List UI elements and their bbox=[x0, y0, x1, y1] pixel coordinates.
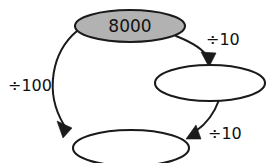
node-bottom[interactable] bbox=[73, 130, 189, 163]
diagram-canvas: ÷100 ÷10 ÷10 8000 bbox=[0, 0, 267, 163]
arrowhead-down-left-bottom-node-right bbox=[186, 125, 201, 139]
edge-divide-100-label: ÷100 bbox=[8, 76, 52, 95]
node-middle-right-shape[interactable] bbox=[155, 65, 265, 101]
edge-divide-10-bottom: ÷10 bbox=[186, 100, 242, 143]
node-bottom-shape[interactable] bbox=[73, 130, 189, 163]
division-chain-diagram: ÷100 ÷10 ÷10 8000 bbox=[0, 0, 267, 163]
edge-divide-100-path bbox=[53, 31, 77, 125]
edge-divide-100: ÷100 bbox=[8, 31, 77, 138]
node-middle-right[interactable] bbox=[155, 65, 265, 101]
node-start-label: 8000 bbox=[108, 16, 151, 36]
arrowhead-down-left-bottom-node bbox=[57, 121, 72, 138]
edge-divide-10-top: ÷10 bbox=[176, 30, 240, 68]
edge-divide-10-top-label: ÷10 bbox=[206, 30, 240, 49]
node-start[interactable]: 8000 bbox=[75, 10, 185, 42]
edge-divide-10-bottom-label: ÷10 bbox=[208, 124, 242, 143]
